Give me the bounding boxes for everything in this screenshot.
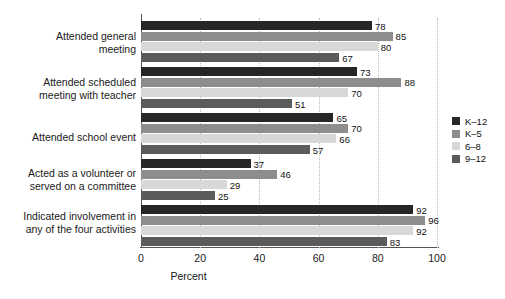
bar-value-label: 88 (404, 78, 415, 87)
legend-item: 9–12 (452, 153, 504, 166)
bar-chart-figure: Attended generalmeetingAttended schedule… (0, 0, 505, 299)
category-label-line: Indicated involvement in (8, 210, 136, 223)
bar (141, 88, 348, 97)
x-axis-title-text: Percent (170, 270, 206, 282)
bar (141, 113, 333, 122)
bar (141, 124, 348, 133)
bar (141, 67, 357, 76)
x-axis-title: Percent (0, 270, 505, 282)
gridline-100 (437, 18, 438, 248)
bar-value-label: 37 (254, 160, 265, 169)
category-label-line: Attended scheduled (8, 76, 136, 89)
bar-value-label: 66 (339, 135, 350, 144)
bar-value-label: 83 (390, 238, 401, 247)
category-label: Indicated involvement inany of the four … (8, 210, 136, 235)
bar-value-label: 85 (396, 32, 407, 41)
x-tick-label: 100 (422, 252, 452, 264)
bar-value-label: 25 (218, 192, 229, 201)
category-label-line: Acted as a volunteer or (8, 167, 136, 180)
category-label-line: meeting (8, 43, 136, 56)
legend-item: K–5 (452, 128, 504, 141)
bar (141, 226, 413, 235)
bar (141, 145, 310, 154)
bar (141, 216, 425, 225)
footnote-text (4, 289, 304, 298)
bar-value-label: 73 (360, 68, 371, 77)
legend-label: K–12 (465, 116, 487, 127)
bar (141, 159, 251, 168)
bar (141, 21, 372, 30)
bar (141, 237, 387, 246)
bar (141, 99, 292, 108)
category-label: Attended scheduledmeeting with teacher (8, 76, 136, 101)
bar-value-label: 67 (342, 54, 353, 63)
bar-value-label: 80 (381, 43, 392, 52)
legend: K–12K–56–89–12 (452, 115, 504, 165)
legend-swatch-icon (452, 130, 460, 138)
bar-value-label: 96 (428, 216, 439, 225)
category-label-line: any of the four activities (8, 223, 136, 236)
x-tick-label: 20 (185, 252, 215, 264)
bar-value-label: 92 (416, 227, 427, 236)
x-tick-label: 80 (363, 252, 393, 264)
legend-item: K–12 (452, 115, 504, 128)
bar-value-label: 92 (416, 206, 427, 215)
legend-label: K–5 (465, 128, 482, 139)
bar (141, 32, 393, 41)
bar (141, 170, 277, 179)
category-label: Acted as a volunteer orserved on a commi… (8, 167, 136, 192)
bar (141, 191, 215, 200)
legend-swatch-icon (452, 142, 460, 150)
legend-swatch-icon (452, 117, 460, 125)
category-label-line: Attended general (8, 30, 136, 43)
legend-label: 9–12 (465, 153, 486, 164)
bar-value-label: 29 (230, 181, 241, 190)
bar-value-label: 46 (280, 170, 291, 179)
plot-area: 7885806773887051657066573746292592969283 (141, 18, 437, 248)
x-tick-label: 40 (244, 252, 274, 264)
legend-item: 6–8 (452, 140, 504, 153)
bar (141, 205, 413, 214)
bar (141, 53, 339, 62)
category-label-line: Attended school event (8, 131, 136, 144)
legend-label: 6–8 (465, 141, 481, 152)
bar-value-label: 57 (313, 146, 324, 155)
bar (141, 134, 336, 143)
bar-value-label: 70 (351, 89, 362, 98)
bar-value-label: 65 (336, 114, 347, 123)
bar (141, 78, 401, 87)
x-tick-label: 0 (126, 252, 156, 264)
category-label-line: served on a committee (8, 180, 136, 193)
bar-value-label: 51 (295, 100, 306, 109)
bar-value-label: 70 (351, 124, 362, 133)
legend-swatch-icon (452, 155, 460, 163)
bar-value-label: 78 (375, 22, 386, 31)
category-label-line: meeting with teacher (8, 89, 136, 102)
category-label: Attended generalmeeting (8, 30, 136, 55)
bar (141, 180, 227, 189)
bar (141, 42, 378, 51)
category-label: Attended school event (8, 131, 136, 144)
x-tick-label: 60 (304, 252, 334, 264)
